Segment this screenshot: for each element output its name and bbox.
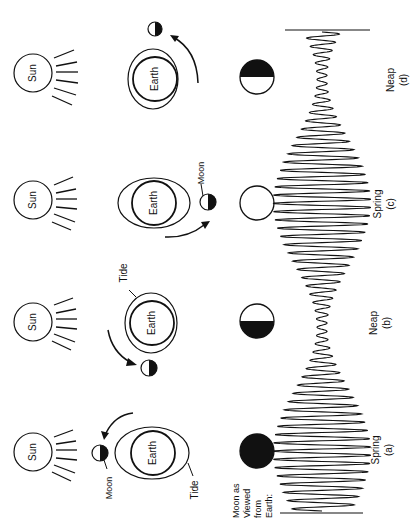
earth-label: Earth — [149, 67, 160, 91]
moon-phase-dark — [240, 321, 274, 338]
earth-b: Earth Tide — [118, 263, 177, 353]
sun-label: Sun — [27, 191, 38, 209]
row-label-line2: Viewed — [242, 489, 252, 518]
moon-phase-c — [240, 186, 274, 220]
sun-rays-icon — [52, 177, 77, 230]
row-label-line4: Earth: — [264, 494, 274, 518]
moon-phase-d — [240, 60, 274, 94]
earth-c: Earth — [118, 178, 190, 228]
tide-leader-line — [188, 463, 193, 476]
earth-label: Earth — [148, 191, 159, 215]
arrowhead-icon — [101, 431, 109, 440]
moon-c: Moon — [196, 162, 216, 210]
tide-labels: Neap (d) Spring (c) Neap (b) Spring (a) — [368, 68, 409, 465]
tide-label-a: Spring (a) — [370, 436, 394, 465]
tide-type-c: Spring — [372, 190, 383, 219]
tide-wave — [273, 32, 371, 511]
earth-d: Earth — [128, 49, 178, 109]
tide-label: Tide — [189, 480, 200, 500]
moon-shadow — [100, 445, 108, 461]
arrowhead-icon — [170, 35, 179, 42]
moon-phase-dark — [240, 60, 274, 77]
moon-phase-b — [240, 304, 274, 338]
moon-d — [148, 22, 162, 36]
sun-rays-icon — [52, 430, 77, 481]
sun-label: Sun — [27, 313, 38, 331]
orbit-arrow-icon — [106, 413, 133, 433]
sun-label: Sun — [27, 443, 38, 461]
tide-curve — [273, 30, 371, 513]
moon-b — [141, 360, 157, 376]
tide-type-b: Neap — [368, 311, 379, 335]
panel-letter-c: (c) — [385, 198, 396, 210]
panel-letter-a: (a) — [383, 444, 394, 456]
moon-shadow — [155, 22, 162, 36]
moon-label: Moon — [104, 477, 114, 500]
sun-c: Sun — [14, 177, 77, 230]
tide-label: Tide — [118, 263, 129, 283]
sun-d: Sun — [14, 50, 78, 105]
tide-type-a: Spring — [370, 436, 381, 465]
moon-shadow — [149, 360, 157, 376]
moon-row-label: Moon as Viewed from Earth: — [231, 483, 274, 518]
panel-a: Sun Earth Tide Moon — [14, 413, 200, 500]
sun-rays-icon — [52, 298, 77, 350]
tide-label-d: Neap (d) — [385, 68, 409, 92]
panel-c: Sun Earth Moon — [14, 162, 216, 237]
panel-b: Sun Earth Tide — [14, 263, 177, 376]
arrowhead-icon — [126, 358, 137, 366]
moon-phase-icon — [240, 434, 274, 468]
row-label-line3: from — [253, 500, 263, 518]
moon-leader-line — [201, 184, 203, 196]
orbit-arrow-icon — [165, 225, 204, 237]
moon-leader-line — [104, 460, 107, 469]
tide-label-b: Neap (b) — [368, 311, 392, 335]
tide-leader-line — [129, 290, 136, 297]
moon-phase-icon — [240, 186, 274, 220]
arrowhead-icon — [201, 221, 210, 229]
panel-letter-b: (b) — [381, 317, 392, 329]
panel-letter-d: (d) — [398, 74, 409, 86]
tide-type-d: Neap — [385, 68, 396, 92]
spring-neap-tides-diagram: Sun Earth Sun — [0, 0, 411, 523]
earth-a: Earth Tide — [115, 427, 200, 500]
moon-shadow — [208, 194, 216, 210]
sun-rays-icon — [52, 50, 78, 105]
moon-a: Moon — [92, 445, 114, 499]
sun-label: Sun — [27, 64, 38, 82]
moon-phase-a — [240, 434, 274, 468]
moon-phase-row: Moon as Viewed from Earth: — [231, 60, 274, 518]
tide-label-c: Spring (c) — [372, 190, 396, 219]
row-label-line1: Moon as — [231, 483, 241, 518]
sun-b: Sun — [14, 298, 77, 350]
earth-label: Earth — [147, 441, 158, 465]
panel-d: Sun Earth — [14, 22, 198, 109]
sun-a: Sun — [14, 430, 77, 481]
moon-label: Moon — [196, 162, 206, 185]
earth-label: Earth — [146, 311, 157, 335]
